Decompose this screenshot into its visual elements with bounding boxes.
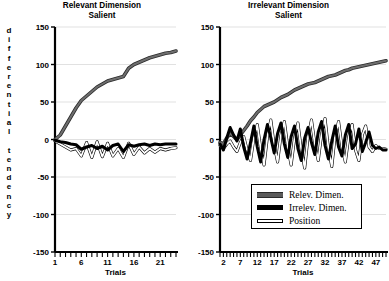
- y-tick-label: -100: [184, 210, 214, 219]
- x-tick-label: 21: [156, 258, 165, 267]
- y-tick-label: -50: [19, 173, 49, 182]
- x-tick-label: 37: [338, 258, 347, 267]
- x-tick-label: 32: [321, 258, 330, 267]
- x-tick-label: 42: [354, 258, 363, 267]
- legend-item-irrelev: Irrelev. Dimen.: [257, 201, 357, 214]
- x-tick-label: 12: [253, 258, 262, 267]
- y-tick-label: 100: [184, 60, 214, 69]
- chart-panel-irrelevant: Irrelevant Dimension Salient Trials 1501…: [188, 0, 389, 281]
- plot-area-irrelevant: [188, 0, 389, 281]
- y-tick-label: 150: [184, 23, 214, 32]
- x-tick-label: 17: [270, 258, 279, 267]
- chart-panel-relevant: Relevant Dimension Salient Trials 150100…: [16, 0, 188, 281]
- y-tick-label: 0: [19, 135, 49, 144]
- x-tick-label: 6: [79, 258, 83, 267]
- y-tick-label: -100: [19, 210, 49, 219]
- legend-item-position: Position: [257, 214, 357, 227]
- x-tick-label: 1: [53, 258, 57, 267]
- figure-root: d i f f e r e n t i a l t e n d e n c y …: [0, 0, 389, 281]
- y-tick-label: 100: [19, 60, 49, 69]
- legend-swatch-position-icon: [257, 219, 283, 223]
- legend-swatch-relev-icon: [257, 192, 283, 198]
- x-axis-title-left: Trials: [55, 268, 176, 277]
- legend-swatch-irrelev-icon: [257, 205, 283, 210]
- x-tick-label: 11: [103, 258, 111, 267]
- y-tick-label: 50: [184, 98, 214, 107]
- x-tick-label: 27: [304, 258, 313, 267]
- y-axis-label: d i f f e r e n t i a l t e n d e n c y: [2, 26, 16, 219]
- y-tick-label: -150: [19, 248, 49, 257]
- x-tick-label: 16: [129, 258, 138, 267]
- x-axis-title-right: Trials: [220, 268, 386, 277]
- y-tick-label: -150: [184, 248, 214, 257]
- y-tick-label: 150: [19, 23, 49, 32]
- y-tick-label: -50: [184, 173, 214, 182]
- y-tick-label: 50: [19, 98, 49, 107]
- x-tick-label: 2: [221, 258, 225, 267]
- x-tick-label: 22: [287, 258, 296, 267]
- x-tick-label: 47: [371, 258, 380, 267]
- legend-label-irrelev: Irrelev. Dimen.: [289, 203, 347, 213]
- legend: Relev. Dimen. Irrelev. Dimen. Position: [251, 184, 362, 229]
- x-tick-label: 7: [238, 258, 242, 267]
- legend-label-relev: Relev. Dimen.: [289, 190, 344, 200]
- legend-item-relev: Relev. Dimen.: [257, 188, 357, 201]
- y-tick-label: 0: [184, 135, 214, 144]
- legend-label-position: Position: [289, 216, 320, 226]
